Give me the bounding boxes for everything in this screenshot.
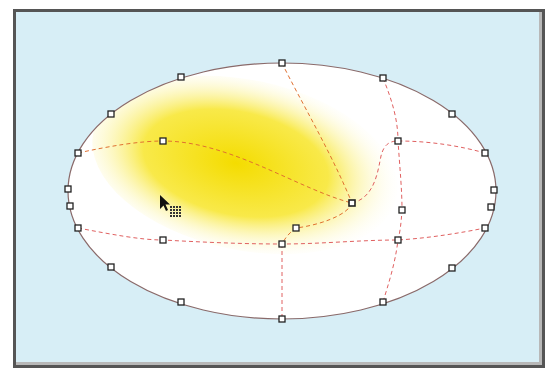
mesh-node[interactable]: [395, 138, 401, 144]
mesh-node[interactable]: [75, 225, 81, 231]
mesh-node[interactable]: [160, 237, 166, 243]
mesh-node[interactable]: [449, 265, 455, 271]
mesh-node[interactable]: [279, 60, 285, 66]
mesh-tool-cursor-icon: [160, 195, 188, 221]
mesh-node[interactable]: [108, 111, 114, 117]
mesh-node[interactable]: [279, 241, 285, 247]
mesh-node[interactable]: [65, 186, 71, 192]
mesh-node[interactable]: [449, 111, 455, 117]
mesh-node[interactable]: [491, 187, 497, 193]
mesh-node[interactable]: [67, 203, 73, 209]
mesh-node[interactable]: [482, 150, 488, 156]
mesh-node[interactable]: [178, 299, 184, 305]
mesh-node[interactable]: [488, 204, 494, 210]
mesh-node[interactable]: [399, 207, 405, 213]
gradient-mesh-object[interactable]: [0, 0, 557, 385]
selected-mesh-node[interactable]: [349, 200, 355, 206]
mesh-node[interactable]: [293, 225, 299, 231]
mesh-node[interactable]: [395, 237, 401, 243]
mesh-node[interactable]: [279, 316, 285, 322]
mesh-node[interactable]: [380, 299, 386, 305]
mesh-node[interactable]: [178, 74, 184, 80]
mesh-node[interactable]: [160, 138, 166, 144]
mesh-node[interactable]: [380, 75, 386, 81]
mesh-node[interactable]: [482, 225, 488, 231]
mesh-node[interactable]: [108, 264, 114, 270]
mesh-node[interactable]: [75, 150, 81, 156]
